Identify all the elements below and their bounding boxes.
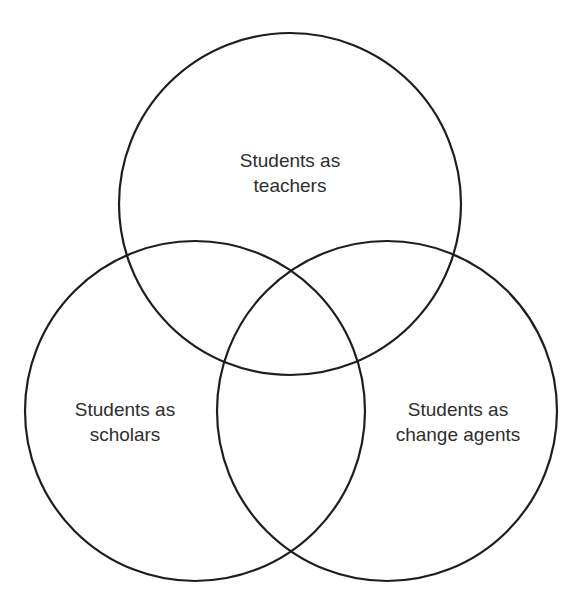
label-line: scholars — [75, 422, 175, 447]
label-students-as-change-agents: Students as change agents — [396, 397, 521, 447]
label-line: Students as — [240, 148, 340, 173]
label-line: change agents — [396, 422, 521, 447]
label-line: Students as — [396, 397, 521, 422]
label-line: Students as — [75, 397, 175, 422]
label-students-as-teachers: Students as teachers — [240, 148, 340, 198]
venn-diagram — [0, 0, 584, 616]
label-line: teachers — [240, 173, 340, 198]
label-students-as-scholars: Students as scholars — [75, 397, 175, 447]
circle-students-as-teachers — [119, 33, 461, 375]
